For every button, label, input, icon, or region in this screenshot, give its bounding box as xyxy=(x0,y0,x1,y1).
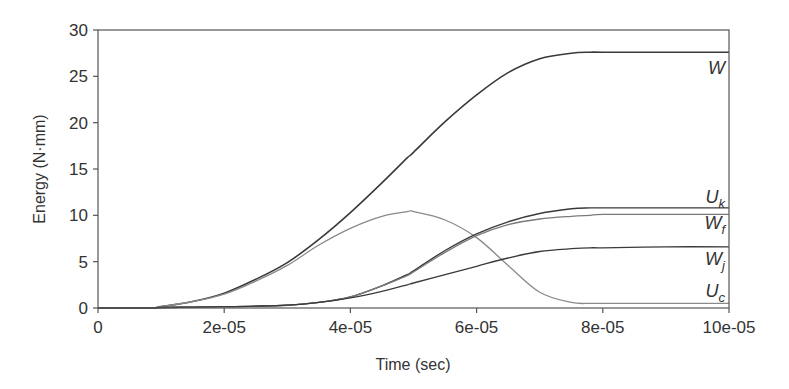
series-label-w-f: Wf xyxy=(704,213,726,237)
series-labels: WUkWfWjUc xyxy=(704,58,727,304)
series-label-u-c: Uc xyxy=(706,281,726,305)
series-line-w-j xyxy=(98,247,729,308)
series-line-w xyxy=(98,52,729,308)
series-line-u-c xyxy=(98,211,729,308)
energy-time-chart: WUkWfWjUc 05101520253002e-054e-056e-058e… xyxy=(0,0,789,389)
x-axis-title: Time (sec) xyxy=(376,356,451,373)
y-tick-label: 15 xyxy=(69,160,88,179)
y-tick-label: 30 xyxy=(69,21,88,40)
x-tick-label: 10e-05 xyxy=(703,318,756,337)
series-line-w-f xyxy=(98,214,729,308)
x-tick-label: 8e-05 xyxy=(581,318,624,337)
x-tick-label: 2e-05 xyxy=(202,318,245,337)
y-axis-title: Energy (N·mm) xyxy=(31,114,48,223)
plot-frame xyxy=(98,30,729,308)
x-tick-label: 4e-05 xyxy=(329,318,372,337)
x-tick-label: 0 xyxy=(93,318,102,337)
series-line-u-k xyxy=(98,208,729,308)
y-tick-label: 25 xyxy=(69,67,88,86)
y-tick-label: 10 xyxy=(69,206,88,225)
series-layer xyxy=(98,52,729,308)
x-tick-label: 6e-05 xyxy=(455,318,498,337)
axes: 05101520253002e-054e-056e-058e-0510e-05 xyxy=(69,21,755,337)
y-tick-label: 0 xyxy=(79,299,88,318)
y-tick-label: 20 xyxy=(69,114,88,133)
series-label-w-j: Wj xyxy=(705,249,726,273)
series-label-w: W xyxy=(708,58,727,78)
y-tick-label: 5 xyxy=(79,253,88,272)
